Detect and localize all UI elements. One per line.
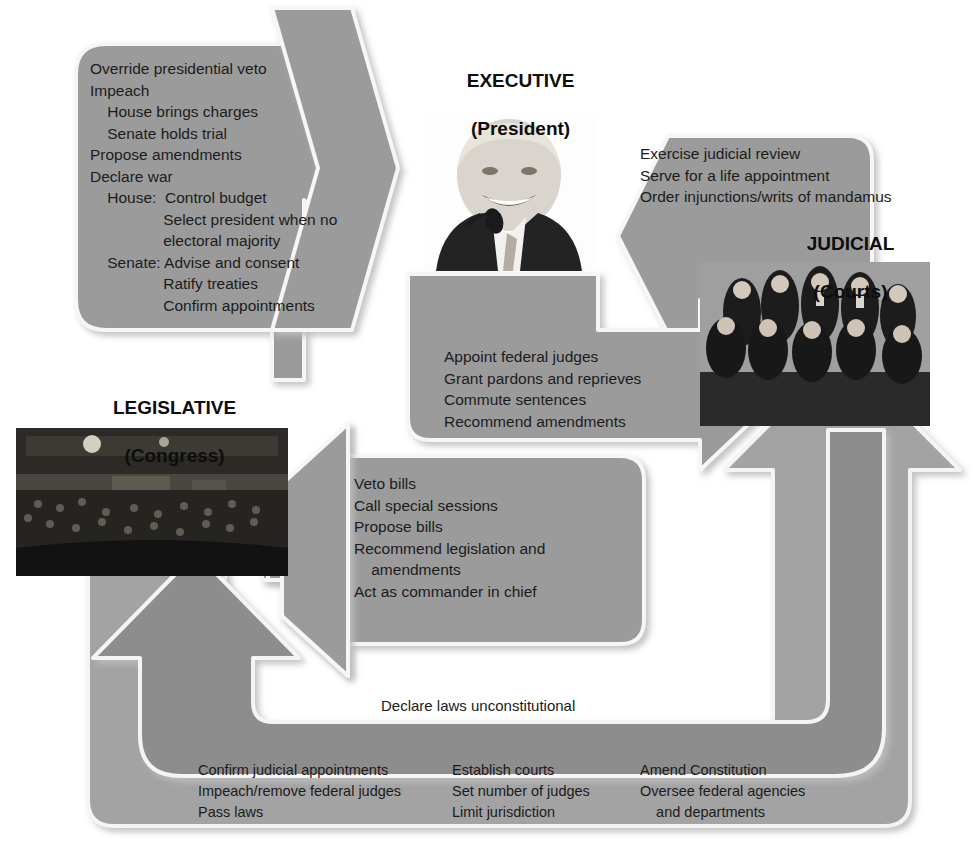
- executive-subtitle: (President): [471, 118, 570, 139]
- executive-heading: EXECUTIVE (President): [400, 45, 620, 165]
- eol-l2: Propose bills: [354, 518, 443, 535]
- legislative-subtitle: (Congress): [124, 445, 224, 466]
- loe-l10: Ratify treaties: [90, 275, 258, 292]
- legislative-over-judicial-col-3: Amend ConstitutionOversee federal agenci…: [640, 760, 805, 823]
- eol-l5: Act as commander in chief: [354, 583, 537, 600]
- loj-c1-l0: Confirm judicial appointments: [198, 762, 388, 778]
- loe-l7: Select president when no: [90, 211, 337, 228]
- eoj-l3: Recommend amendments: [444, 413, 626, 430]
- loe-l6: House: Control budget: [90, 189, 267, 206]
- jol-l0: Declare laws unconstitutional: [381, 697, 575, 714]
- eoj-l1: Grant pardons and reprieves: [444, 370, 641, 387]
- loj-c2-l1: Set number of judges: [452, 783, 590, 799]
- loj-c1-l2: Pass laws: [198, 804, 263, 820]
- loe-l5: Declare war: [90, 168, 173, 185]
- judicial-heading: JUDICIAL (Courts): [740, 208, 940, 328]
- joe-l1: Serve for a life appointment: [640, 167, 830, 184]
- loe-l9: Senate: Advise and consent: [90, 254, 299, 271]
- joe-l2: Order injunctions/writs of mandamus: [640, 188, 892, 205]
- loj-c2-l0: Establish courts: [452, 762, 554, 778]
- judicial-subtitle: (Courts): [814, 281, 888, 302]
- judicial-over-legislative-text: Declare laws unconstitutional: [381, 695, 575, 717]
- legislative-title: LEGISLATIVE: [113, 397, 236, 418]
- legislative-over-judicial-col-2: Establish courtsSet number of judgesLimi…: [452, 760, 590, 823]
- executive-over-judicial-text: Appoint federal judgesGrant pardons and …: [444, 346, 641, 432]
- loe-l3: Senate holds trial: [90, 125, 227, 142]
- eol-l1: Call special sessions: [354, 497, 498, 514]
- judicial-title: JUDICIAL: [807, 233, 895, 254]
- loj-c2-l2: Limit jurisdiction: [452, 804, 555, 820]
- checks-and-balances-diagram: EXECUTIVE (President) LEGISLATIVE (Congr…: [0, 0, 973, 868]
- loj-c3-l1: Oversee federal agencies: [640, 783, 805, 799]
- loe-l0: Override presidential veto: [90, 60, 267, 77]
- eol-l3: Recommend legislation and: [354, 540, 545, 557]
- loe-l11: Confirm appointments: [90, 297, 315, 314]
- eoj-l2: Commute sentences: [444, 391, 586, 408]
- loj-c3-l2: and departments: [640, 804, 765, 820]
- eol-l0: Veto bills: [354, 475, 416, 492]
- legislative-over-executive-text: Override presidential vetoImpeach House …: [90, 58, 337, 316]
- executive-title: EXECUTIVE: [467, 70, 575, 91]
- joe-l0: Exercise judicial review: [640, 145, 800, 162]
- loj-c3-l0: Amend Constitution: [640, 762, 767, 778]
- loe-l4: Propose amendments: [90, 146, 242, 163]
- eol-l4: amendments: [354, 561, 461, 578]
- loe-l1: Impeach: [90, 82, 149, 99]
- eoj-l0: Appoint federal judges: [444, 348, 598, 365]
- loj-c1-l1: Impeach/remove federal judges: [198, 783, 401, 799]
- loe-l8: electoral majority: [90, 232, 280, 249]
- executive-over-legislative-text: Veto billsCall special sessionsPropose b…: [354, 473, 545, 602]
- judicial-over-executive-text: Exercise judicial reviewServe for a life…: [640, 143, 892, 208]
- loe-l2: House brings charges: [90, 103, 258, 120]
- legislative-over-judicial-col-1: Confirm judicial appointmentsImpeach/rem…: [198, 760, 401, 823]
- legislative-heading: LEGISLATIVE (Congress): [44, 372, 284, 492]
